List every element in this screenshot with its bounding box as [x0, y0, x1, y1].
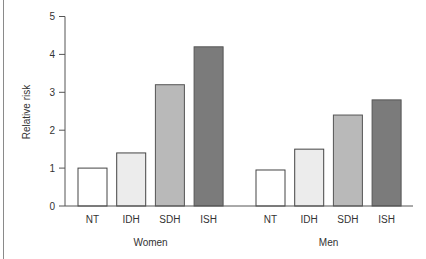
y-axis-title: Relative risk [21, 84, 32, 139]
y-tick-label: 3 [49, 87, 55, 98]
y-tick-label: 5 [49, 11, 55, 22]
x-tick-label: ISH [378, 214, 395, 225]
bar-men-sdh [333, 115, 362, 206]
x-tick-label: SDH [159, 214, 180, 225]
group-label: Men [319, 237, 338, 248]
x-tick-label: ISH [200, 214, 217, 225]
bar-men-ish [372, 100, 401, 206]
bar-women-ish [194, 47, 223, 206]
bar-men-idh [295, 149, 324, 206]
bar-women-nt [78, 168, 107, 206]
bar-chart: 012345 NTIDHSDHISHWomenNTIDHSDHISHMen Re… [0, 0, 426, 259]
x-tick-label: NT [86, 214, 99, 225]
bar-men-nt [256, 170, 285, 206]
x-tick-label: NT [264, 214, 277, 225]
x-tick-label: IDH [123, 214, 140, 225]
y-tick-label: 1 [49, 163, 55, 174]
x-tick-label: IDH [301, 214, 318, 225]
y-axis: 012345 [49, 11, 65, 212]
y-tick-label: 2 [49, 125, 55, 136]
y-tick-label: 0 [49, 201, 55, 212]
x-axis: NTIDHSDHISHWomenNTIDHSDHISHMen [65, 206, 413, 248]
group-label: Women [133, 237, 167, 248]
bar-women-sdh [155, 85, 184, 206]
bars [78, 47, 401, 206]
bar-women-idh [117, 153, 146, 206]
y-tick-label: 4 [49, 49, 55, 60]
x-tick-label: SDH [337, 214, 358, 225]
